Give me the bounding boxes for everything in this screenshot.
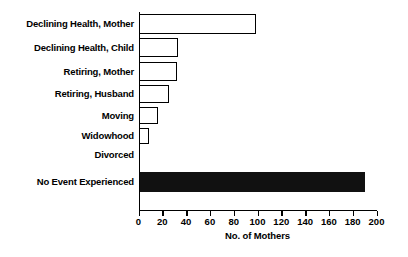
x-tick-label: 60 (205, 216, 216, 227)
bar-no-event-experienced (139, 172, 365, 192)
x-tick-label: 160 (321, 216, 337, 227)
x-tick-label: 140 (297, 216, 313, 227)
x-axis-title: No. of Mothers (139, 230, 377, 241)
bar-declining-health-child (139, 38, 178, 57)
x-tick-label: 20 (157, 216, 168, 227)
x-tick-label: 180 (345, 216, 361, 227)
category-label: Widowhood (82, 130, 134, 141)
x-tick-label: 100 (250, 216, 266, 227)
x-tick-label: 80 (228, 216, 239, 227)
category-label-column: Declining Health, MotherDeclining Health… (0, 0, 134, 215)
category-label: Divorced (95, 149, 134, 160)
x-tick-label: 0 (136, 216, 141, 227)
bar-chart: Declining Health, MotherDeclining Health… (0, 0, 408, 257)
x-tick-label: 40 (181, 216, 192, 227)
bottom-clipped-text (190, 250, 300, 255)
category-label: Retiring, Husband (55, 88, 134, 99)
x-tick-label: 200 (369, 216, 385, 227)
category-label: Retiring, Mother (64, 66, 134, 77)
bar-declining-health-mother (139, 14, 257, 34)
y-axis-line (139, 12, 141, 211)
category-label: Declining Health, Child (34, 42, 134, 53)
bar-retiring-husband (139, 85, 170, 103)
bar-retiring-mother (139, 62, 177, 81)
x-tick-label: 120 (273, 216, 289, 227)
category-label: Declining Health, Mother (26, 18, 134, 29)
category-label: No Event Experienced (37, 176, 134, 187)
category-label: Moving (102, 110, 134, 121)
plot-area (139, 12, 377, 210)
bar-moving (139, 107, 158, 124)
